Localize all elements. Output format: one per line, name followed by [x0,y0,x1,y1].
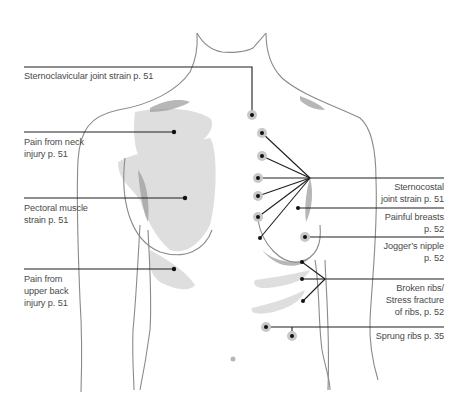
neck-left [197,33,266,52]
label-joggers-nipple: Jogger’s nipple p. 52 [384,240,444,264]
left-arm-inner-2 [140,230,151,390]
label-upper-back: Pain from upper back injury p. 51 [24,273,68,309]
navel [231,357,236,362]
rib-region-lower [252,290,305,314]
label-pectoral: Pectoral muscle strain p. 51 [24,202,88,226]
leader-sc-5 [258,178,310,217]
label-neck-injury: Pain from neck injury p. 51 [24,136,84,160]
label-sternocostal: Sternocostal joint strain p. 51 [381,181,444,205]
right-breast [258,220,320,262]
dot-sprung-1 [264,325,268,329]
breast-shade-right [305,178,312,222]
body-outline [77,33,378,392]
label-painful-breasts: Painful breasts p. 52 [385,211,444,235]
leader-br-3 [303,279,325,301]
leader-sc-2 [262,156,310,178]
label-sternoclavicular: Sternoclavicular joint strain p. 51 [24,70,153,82]
label-broken-ribs: Broken ribs/ Stress fracture of ribs, p.… [386,282,444,318]
dot-neck [172,130,176,134]
dot-breasts [296,206,300,210]
pectoral-region [118,138,216,251]
dot-sprung-2 [290,334,294,338]
left-arm-inner [133,225,140,390]
neck-edge-right [266,33,378,380]
dot-sternoclavicular [250,113,254,117]
leader-sc-1 [262,133,310,178]
dot-pectoral [183,196,187,200]
label-sprung-ribs: Sprung ribs p. 35 [376,330,444,342]
dot-upper-back [172,267,176,271]
shoulder-shade-right [300,96,325,110]
leader-br-1 [302,262,325,279]
dot-nipple [303,235,307,239]
